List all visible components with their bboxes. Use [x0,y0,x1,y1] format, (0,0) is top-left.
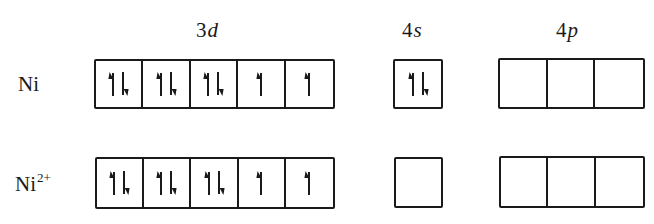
orbital-box [596,158,643,206]
orbital-group-3d-ni [94,59,335,109]
header-3d-letter: d [208,18,220,42]
orbital-box [395,61,441,107]
electron-pair [157,171,176,195]
orbital-box [396,159,441,206]
header-4p-letter: p [568,18,580,42]
header-3d: 3d [196,18,219,43]
electron-pair [409,72,428,96]
spin-up-arrow-icon [157,171,165,195]
header-3d-number: 3 [196,18,208,42]
species-symbol: Ni [15,172,36,196]
header-4p: 4p [556,18,579,43]
orbital-box [238,61,285,107]
orbital-box [286,159,333,207]
electron-pair [204,72,223,96]
spin-up-arrow-icon [157,72,165,96]
header-4s-number: 4 [402,18,414,42]
electron-pair [205,171,224,195]
spin-down-arrow-icon [120,72,128,96]
spin-up-arrow-icon [110,171,118,195]
species-label-ni: Ni [18,70,40,97]
species-charge: 2+ [37,170,51,185]
electron-pair [110,171,129,195]
spin-down-arrow-icon [216,171,224,195]
orbital-box [97,159,144,207]
header-4s: 4s [402,18,423,43]
spin-down-arrow-icon [420,72,428,96]
orbital-group-4s-ni2plus [394,157,443,208]
orbital-group-4p-ni2plus [499,156,645,208]
spin-up-arrow-icon [205,171,213,195]
orbital-box [143,61,190,107]
spin-up-arrow-icon [204,72,212,96]
orbital-group-3d-ni2plus [95,157,335,209]
spin-up-arrow-icon [109,72,117,96]
spin-down-arrow-icon [168,171,176,195]
orbital-box [96,61,143,107]
orbital-box [191,61,238,107]
orbital-box [501,158,548,206]
spin-down-arrow-icon [168,72,176,96]
spin-up-arrow-icon [409,72,417,96]
species-label-ni2plus: Ni2+ [15,170,51,197]
orbital-box [191,159,238,207]
spin-up-arrow-icon [257,171,265,195]
orbital-box [144,159,191,207]
electron-pair [157,72,176,96]
orbital-box [548,60,596,107]
header-4p-number: 4 [556,18,568,42]
spin-up-arrow-icon [305,171,313,195]
electron-pair [109,72,128,96]
header-4s-letter: s [414,18,423,42]
spin-up-arrow-icon [305,72,313,96]
species-symbol: Ni [18,72,39,96]
orbital-box [286,61,333,107]
spin-down-arrow-icon [215,72,223,96]
orbital-box [548,158,595,206]
orbital-box [239,159,286,207]
orbital-box [500,60,548,107]
orbital-box [595,60,643,107]
orbital-group-4p-ni [498,58,645,109]
spin-down-arrow-icon [121,171,129,195]
orbital-group-4s-ni [393,59,443,109]
spin-up-arrow-icon [257,72,265,96]
